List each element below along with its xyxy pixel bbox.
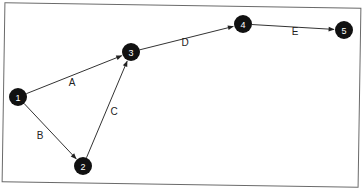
node-label: 5 bbox=[341, 26, 346, 36]
node-label: 4 bbox=[240, 20, 245, 30]
node-5: 5 bbox=[335, 21, 353, 39]
node-3: 3 bbox=[122, 43, 140, 61]
edge-c bbox=[86, 61, 127, 157]
node-label: 2 bbox=[80, 162, 85, 172]
edge-label-e: E bbox=[292, 26, 299, 37]
network-diagram: ABCDE 12345 bbox=[0, 0, 364, 188]
node-2: 2 bbox=[74, 157, 92, 175]
node-label: 3 bbox=[128, 48, 133, 58]
edges bbox=[24, 25, 334, 159]
edge-label-c: C bbox=[110, 106, 117, 117]
edge-label-a: A bbox=[69, 77, 76, 88]
node-1: 1 bbox=[9, 88, 27, 106]
edge-label-b: B bbox=[37, 130, 44, 141]
edge-label-d: D bbox=[181, 37, 188, 48]
node-4: 4 bbox=[234, 15, 252, 33]
edge-b bbox=[24, 104, 76, 159]
node-label: 1 bbox=[15, 93, 20, 103]
